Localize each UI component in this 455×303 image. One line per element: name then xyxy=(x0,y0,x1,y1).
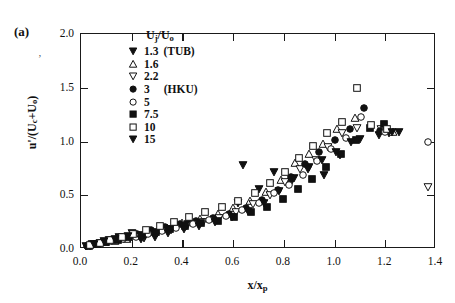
legend-marker-icon xyxy=(122,110,144,118)
legend-marker-icon xyxy=(122,72,144,80)
legend-entry: 5 xyxy=(122,95,247,108)
y-tick-label: 1.0 xyxy=(44,135,74,147)
data-point xyxy=(307,175,316,184)
y-tick-label: 1.5 xyxy=(44,81,74,93)
x-tick-label: 1.2 xyxy=(377,255,391,267)
legend-label: 5 xyxy=(144,96,150,108)
data-point xyxy=(195,222,204,231)
data-point xyxy=(141,226,150,235)
data-point xyxy=(347,137,356,146)
legend-entry: 3(HKU) xyxy=(122,83,247,96)
data-point xyxy=(150,232,159,241)
data-point xyxy=(269,167,278,176)
x-tick-label: 1.0 xyxy=(326,255,340,267)
data-point xyxy=(184,212,193,221)
figure-panel: (a) ‚ 0.00.20.40.60.81.01.21.4 0.00.51.0… xyxy=(0,0,455,303)
data-point xyxy=(111,234,120,243)
legend-marker-icon xyxy=(122,135,144,143)
data-point xyxy=(274,187,283,196)
legend-entry: 2.2 xyxy=(122,70,247,83)
data-point xyxy=(294,185,303,194)
x-tick-mark xyxy=(233,240,234,247)
legend-entry: 1.3(TUB) xyxy=(122,45,247,58)
legend-entry: 10 xyxy=(122,121,247,134)
data-point xyxy=(395,128,404,137)
x-tick-mark xyxy=(335,240,336,247)
data-point xyxy=(259,198,268,207)
data-point xyxy=(169,217,178,226)
legend-label: 1.6 xyxy=(144,58,158,70)
x-axis-label: x/xp xyxy=(80,278,435,293)
y-axis-label: u'/(Uc+Uo) xyxy=(25,43,40,203)
legend-label: 10 xyxy=(144,121,156,133)
data-point xyxy=(357,112,366,121)
data-point xyxy=(330,136,339,145)
x-tick-label: 0.4 xyxy=(174,255,188,267)
legend-entry: 15 xyxy=(122,133,247,146)
x-tick-label: 0.6 xyxy=(225,255,239,267)
legend-label: 7.5 xyxy=(144,108,158,120)
legend-marker-icon xyxy=(122,98,144,106)
data-point xyxy=(201,208,210,217)
y-tick-mark xyxy=(81,142,88,143)
data-point xyxy=(290,174,299,183)
data-point xyxy=(309,142,318,151)
y-tick-label: 0.5 xyxy=(44,188,74,200)
data-point xyxy=(281,167,290,176)
x-tick-mark-top xyxy=(385,34,386,41)
data-point xyxy=(424,137,433,146)
data-point xyxy=(217,202,226,211)
y-tick-label: 0.0 xyxy=(44,242,74,254)
x-tick-mark-top xyxy=(335,34,336,41)
x-tick-label: 1.4 xyxy=(428,255,442,267)
y-tick-mark xyxy=(81,88,88,89)
data-point xyxy=(164,229,173,238)
data-point xyxy=(323,129,332,138)
data-point xyxy=(318,155,327,164)
data-point xyxy=(353,123,362,132)
data-point xyxy=(320,171,329,180)
data-point xyxy=(278,195,287,204)
data-point xyxy=(124,232,133,241)
legend-marker-icon xyxy=(122,47,144,55)
data-point xyxy=(345,124,354,133)
panel-label: (a) xyxy=(14,24,29,40)
legend-note: (TUB) xyxy=(163,45,194,57)
x-tick-mark-top xyxy=(284,34,285,41)
legend-title: Uj/Uo xyxy=(146,28,247,43)
legend-entries: 1.3(TUB)1.62.23(HKU)57.51015 xyxy=(122,45,247,146)
x-tick-label: 0.8 xyxy=(276,255,290,267)
legend: Uj/Uo 1.3(TUB)1.62.23(HKU)57.51015 xyxy=(122,28,247,146)
x-tick-mark xyxy=(284,240,285,247)
x-tick-label: 0.2 xyxy=(124,255,138,267)
y-tick-label: 2.0 xyxy=(44,27,74,39)
data-point xyxy=(367,121,376,130)
legend-entry: 1.6 xyxy=(122,58,247,71)
legend-marker-icon xyxy=(122,60,144,68)
x-tick-label: 0.0 xyxy=(73,255,87,267)
data-point xyxy=(239,161,248,170)
data-point xyxy=(359,104,368,113)
data-point xyxy=(155,222,164,231)
x-tick-mark xyxy=(385,240,386,247)
y-tick-mark xyxy=(81,195,88,196)
legend-marker-icon xyxy=(122,85,144,93)
data-point xyxy=(266,179,275,188)
data-point xyxy=(338,118,347,127)
legend-note: (HKU) xyxy=(164,83,198,95)
y-tick-mark-right xyxy=(427,88,434,89)
data-point xyxy=(250,189,259,198)
data-point xyxy=(244,207,253,216)
data-point xyxy=(211,218,220,227)
legend-entry: 7.5 xyxy=(122,108,247,121)
legend-label: 15 xyxy=(144,133,156,145)
data-point xyxy=(295,153,304,162)
legend-label: 3 xyxy=(144,83,150,95)
data-point xyxy=(332,147,341,156)
data-point xyxy=(424,182,433,191)
data-point xyxy=(234,196,243,205)
y-tick-mark-right xyxy=(427,195,434,196)
data-point xyxy=(228,213,237,222)
data-point xyxy=(136,235,145,244)
x-tick-mark xyxy=(182,240,183,247)
